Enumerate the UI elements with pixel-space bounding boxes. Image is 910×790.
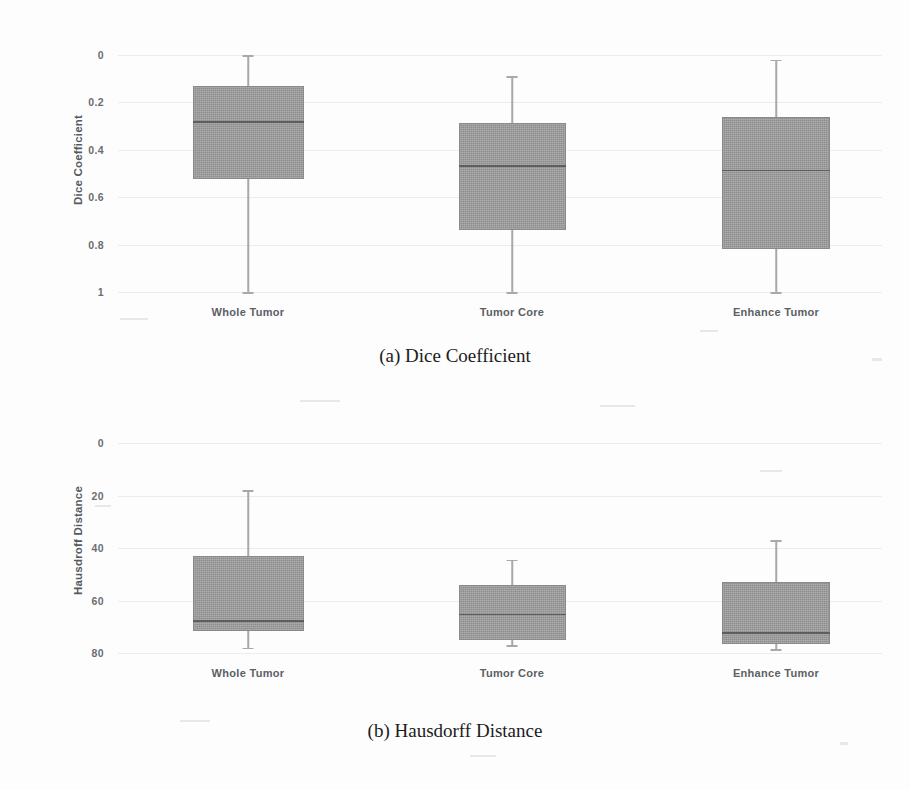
x-axis-tick-label: Whole Tumor — [212, 667, 285, 679]
whisker-upper — [247, 55, 249, 86]
caption-figure-a: (a) Dice Coefficient — [0, 345, 910, 367]
whisker-cap-upper — [243, 55, 254, 57]
scan-artifact — [95, 505, 111, 507]
box — [722, 117, 830, 250]
figure-hausdorff-distance: Hausdroff Distance806040200Whole TumorTu… — [0, 395, 910, 790]
scan-artifact — [760, 470, 782, 472]
whisker-cap-upper — [507, 560, 518, 562]
x-axis-tick-label: Enhance Tumor — [733, 306, 819, 318]
y-axis-tick-label: 0 — [58, 49, 104, 61]
scan-artifact — [470, 755, 496, 757]
median-line — [459, 165, 566, 167]
whisker-cap-lower — [243, 292, 254, 294]
gridline — [118, 292, 882, 293]
scan-artifact — [300, 400, 340, 402]
y-axis-tick-label: 40 — [58, 542, 104, 554]
whisker-cap-lower — [507, 645, 518, 647]
whisker-lower — [511, 230, 513, 292]
y-axis-tick-label: 60 — [58, 595, 104, 607]
y-axis-tick-label: 0.2 — [58, 96, 104, 108]
y-axis-tick-label: 0.8 — [58, 239, 104, 251]
box — [722, 582, 830, 644]
whisker-cap-upper — [771, 60, 782, 62]
median-line — [193, 620, 304, 622]
whisker-upper — [247, 490, 249, 556]
whisker-cap-upper — [507, 76, 518, 78]
y-axis-tick-label: 0.6 — [58, 191, 104, 203]
median-line — [459, 614, 566, 616]
whisker-cap-lower — [507, 292, 518, 294]
whisker-lower — [247, 179, 249, 292]
gridline — [118, 55, 882, 56]
whisker-lower — [247, 631, 249, 648]
whisker-cap-upper — [243, 490, 254, 492]
x-axis-tick-label: Tumor Core — [480, 306, 545, 318]
y-axis-tick-label: 20 — [58, 490, 104, 502]
boxplot-hausdorff-distance: Hausdroff Distance806040200Whole TumorTu… — [0, 395, 910, 725]
whisker-cap-lower — [243, 648, 254, 650]
scan-artifact — [840, 742, 848, 745]
caption-figure-b: (b) Hausdorff Distance — [0, 720, 910, 742]
y-axis-tick-label: 1 — [58, 286, 104, 298]
gridline — [118, 548, 882, 549]
whisker-cap-upper — [771, 540, 782, 542]
x-axis-tick-label: Enhance Tumor — [733, 667, 819, 679]
whisker-upper — [511, 76, 513, 122]
box — [459, 123, 566, 231]
whisker-cap-lower — [771, 649, 782, 651]
gridline — [118, 443, 882, 444]
whisker-lower — [775, 249, 777, 292]
scan-artifact — [120, 318, 148, 320]
figure-dice-coefficient: Dice Coefficient10.80.60.40.20Whole Tumo… — [0, 0, 910, 395]
figure-page: Dice Coefficient10.80.60.40.20Whole Tumo… — [0, 0, 910, 790]
median-line — [193, 121, 304, 123]
scan-artifact — [600, 405, 635, 407]
gridline — [118, 653, 882, 654]
whisker-upper — [511, 560, 513, 585]
y-axis-label: Hausdroff Distance — [72, 486, 84, 595]
boxplot-dice-coefficient: Dice Coefficient10.80.60.40.20Whole Tumo… — [0, 0, 910, 330]
scan-artifact — [872, 358, 882, 361]
scan-artifact — [700, 330, 718, 332]
y-axis-tick-label: 0 — [58, 437, 104, 449]
x-axis-tick-label: Tumor Core — [480, 667, 545, 679]
box — [193, 86, 304, 180]
y-axis-tick-label: 0.4 — [58, 144, 104, 156]
median-line — [722, 170, 830, 172]
scan-artifact — [180, 720, 210, 722]
box — [459, 585, 566, 640]
gridline — [118, 496, 882, 497]
whisker-upper — [775, 60, 777, 117]
x-axis-tick-label: Whole Tumor — [212, 306, 285, 318]
whisker-upper — [775, 540, 777, 582]
median-line — [722, 632, 830, 634]
y-axis-tick-label: 80 — [58, 647, 104, 659]
whisker-cap-lower — [771, 292, 782, 294]
